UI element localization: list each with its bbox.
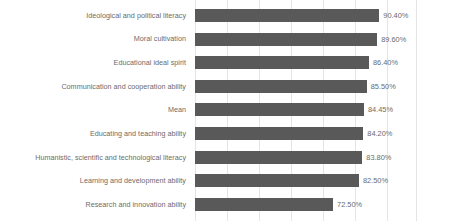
bar <box>195 80 367 93</box>
bar-value-label: 84.45% <box>368 104 393 115</box>
bar <box>195 33 377 46</box>
bar-chart: Ideological and political literacy Moral… <box>0 0 449 221</box>
category-axis-labels: Ideological and political literacy Moral… <box>0 0 191 221</box>
category-label: Moral cultivation <box>134 34 186 43</box>
plot-area: 90.40% 89.60% 86.40% 85.50% 84.45% 84.20… <box>195 0 417 221</box>
category-label: Learning and development ability <box>80 176 186 185</box>
category-label: Ideological and political literacy <box>86 11 186 20</box>
bar-value-label: 85.50% <box>371 81 396 92</box>
category-label: Mean <box>168 105 186 114</box>
bar <box>195 127 363 140</box>
bar <box>195 103 364 116</box>
gridline <box>416 0 417 221</box>
bar-value-label: 83.80% <box>366 152 391 163</box>
category-label: Educating and teaching ability <box>90 129 186 138</box>
bar-value-label: 84.20% <box>367 128 392 139</box>
category-label: Research and innovation ability <box>85 200 186 209</box>
bar-value-label: 82.50% <box>363 175 388 186</box>
category-label: Educational ideal spirit <box>114 58 186 67</box>
category-label: Communication and cooperation ability <box>61 82 186 91</box>
bar-value-label: 90.40% <box>383 10 408 21</box>
category-label: Humanistic, scientific and technological… <box>35 153 186 162</box>
bar <box>195 151 362 164</box>
bar-value-label: 86.40% <box>373 57 398 68</box>
bar-value-label: 89.60% <box>381 34 406 45</box>
bar <box>195 198 333 211</box>
bar-value-label: 72.50% <box>337 199 362 210</box>
bar <box>195 174 359 187</box>
bar <box>195 56 369 69</box>
bar <box>195 9 379 22</box>
